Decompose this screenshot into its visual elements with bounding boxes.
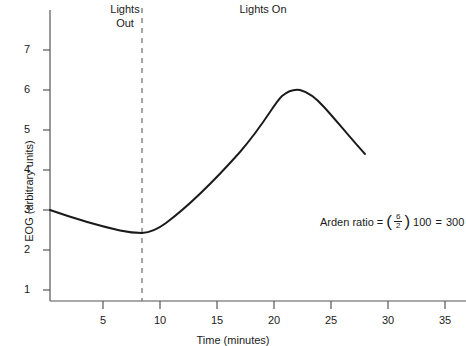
y-tick-label-7: 7 <box>18 43 36 55</box>
x-tick-label-25: 25 <box>319 314 343 326</box>
y-tick-label-6: 6 <box>18 83 36 95</box>
arden-equals-sign: = <box>435 216 441 228</box>
arden-open-paren: ( <box>386 213 392 230</box>
arden-lead-text: Arden ratio = <box>320 216 383 228</box>
x-tick-label-30: 30 <box>376 314 400 326</box>
arden-ratio-annotation: Arden ratio = ( 6 2 ) 100 = 300 <box>318 213 466 231</box>
lights-out-line-2: Out <box>116 17 134 29</box>
y-axis-title: EOG (arbitrary units) <box>23 111 35 271</box>
chart-plot-area <box>0 0 466 346</box>
x-tick-label-20: 20 <box>262 314 286 326</box>
arden-fraction: 6 2 <box>394 213 402 231</box>
y-tick-label-1: 1 <box>18 283 36 295</box>
y-axis-ticks <box>43 50 50 290</box>
eog-chart-figure: 1 2 3 4 5 6 7 5 10 15 20 25 30 35 EOG (a… <box>0 0 466 346</box>
arden-result: 300 <box>446 216 464 228</box>
x-tick-label-5: 5 <box>91 314 115 326</box>
arden-close-paren: ) <box>404 213 410 230</box>
lights-out-line-1: Lights <box>110 3 139 15</box>
lights-out-annotation: Lights Out <box>92 3 158 31</box>
lights-on-annotation: Lights On <box>208 3 318 17</box>
x-axis-title: Time (minutes) <box>143 334 323 346</box>
eog-curve <box>50 90 365 233</box>
arden-multiplier: 100 <box>413 216 431 228</box>
x-tick-label-15: 15 <box>205 314 229 326</box>
x-axis-ticks <box>103 301 445 309</box>
arden-denominator: 2 <box>394 222 402 230</box>
x-tick-label-35: 35 <box>433 314 457 326</box>
x-tick-label-10: 10 <box>148 314 172 326</box>
